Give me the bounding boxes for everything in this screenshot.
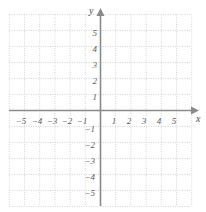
- y-tick-label-5: 5: [81, 29, 97, 38]
- x-tick-label-4: 4: [151, 117, 167, 126]
- y-tick-label--4: −4: [79, 173, 95, 182]
- x-tick-label--4: −4: [29, 117, 45, 126]
- tick-label-layer: −5 −4 −3 −2 −1 1 2 3 4 5 5 4 3 2 1 −1 −2…: [0, 0, 206, 212]
- x-tick-label-1: 1: [106, 117, 122, 126]
- y-tick-label-3: 3: [81, 61, 97, 70]
- y-tick-label-2: 2: [81, 77, 97, 86]
- y-tick-label--5: −5: [79, 189, 95, 198]
- coordinate-grid-figure: −5 −4 −3 −2 −1 1 2 3 4 5 5 4 3 2 1 −1 −2…: [0, 0, 206, 212]
- x-tick-label--2: −2: [59, 117, 75, 126]
- y-tick-label-1: 1: [81, 93, 97, 102]
- y-tick-label--2: −2: [79, 141, 95, 150]
- y-tick-label-4: 4: [81, 45, 97, 54]
- x-tick-label-3: 3: [136, 117, 152, 126]
- x-tick-label-5: 5: [166, 117, 182, 126]
- y-tick-label--1: −1: [79, 125, 95, 134]
- x-tick-label--3: −3: [44, 117, 60, 126]
- x-tick-label--5: −5: [13, 117, 29, 126]
- y-tick-label--3: −3: [79, 157, 95, 166]
- y-axis-label: y: [89, 6, 93, 16]
- x-axis-label: x: [196, 114, 200, 124]
- x-tick-label-2: 2: [121, 117, 137, 126]
